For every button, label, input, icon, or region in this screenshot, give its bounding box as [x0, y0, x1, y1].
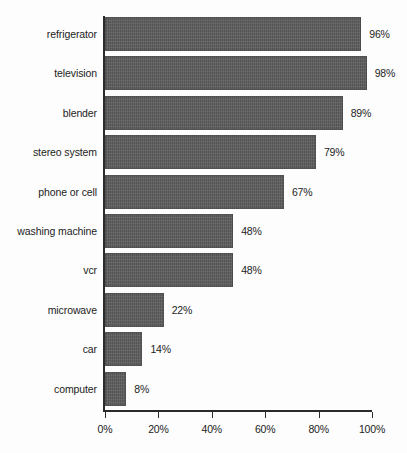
x-axis-tick [265, 412, 266, 418]
bar-value-label: 98% [375, 67, 395, 79]
bar-row: phone or cell67% [0, 174, 407, 210]
bar-value-label: 8% [134, 383, 149, 395]
bar-chart: refrigerator96%television98%blender89%st… [0, 0, 407, 453]
x-axis-tick [319, 412, 320, 418]
x-axis-tick-label: 60% [255, 423, 275, 435]
bar-row: vcr48% [0, 252, 407, 288]
x-axis-tick [105, 412, 106, 418]
bar-row: car14% [0, 331, 407, 367]
bar [105, 214, 233, 248]
bar-value-label: 48% [241, 264, 261, 276]
bar-value-label: 48% [241, 225, 261, 237]
bar-row: television98% [0, 55, 407, 91]
bar-row: washing machine48% [0, 213, 407, 249]
bar [105, 332, 142, 366]
category-label: washing machine [17, 225, 97, 237]
bar-row: computer8% [0, 371, 407, 407]
bar [105, 175, 284, 209]
x-axis-tick-label: 80% [308, 423, 328, 435]
x-axis-tick [212, 412, 213, 418]
bar-row: microwave22% [0, 292, 407, 328]
x-axis-tick-label: 40% [202, 423, 222, 435]
bar [105, 56, 367, 90]
bar-value-label: 96% [369, 28, 389, 40]
category-label: car [83, 343, 97, 355]
bar-value-label: 14% [150, 343, 170, 355]
bar-value-label: 89% [351, 107, 371, 119]
bar-value-label: 67% [292, 186, 312, 198]
category-label: stereo system [33, 146, 97, 158]
x-axis-line [103, 410, 372, 412]
bar [105, 96, 343, 130]
bar [105, 17, 361, 51]
bar-row: stereo system79% [0, 134, 407, 170]
category-label: phone or cell [38, 186, 97, 198]
bar-value-label: 79% [324, 146, 344, 158]
x-axis-tick [158, 412, 159, 418]
bar [105, 372, 126, 406]
category-label: television [54, 67, 97, 79]
bar [105, 253, 233, 287]
x-axis-tick [372, 412, 373, 418]
bar [105, 135, 316, 169]
category-label: refrigerator [47, 28, 97, 40]
bar-row: refrigerator96% [0, 16, 407, 52]
category-label: blender [63, 107, 97, 119]
x-axis-tick-label: 100% [359, 423, 385, 435]
category-label: computer [54, 383, 97, 395]
category-label: vcr [83, 264, 97, 276]
category-label: microwave [48, 304, 97, 316]
x-axis-tick-label: 20% [148, 423, 168, 435]
bar-row: blender89% [0, 95, 407, 131]
bar [105, 293, 164, 327]
x-axis-tick-label: 0% [98, 423, 113, 435]
bar-value-label: 22% [172, 304, 192, 316]
